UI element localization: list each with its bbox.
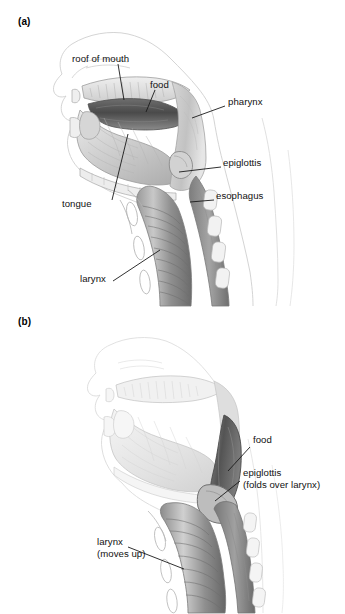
panel-a-artwork	[0, 0, 345, 307]
food-bolus-a	[88, 99, 185, 130]
label-epiglottis-b: epiglottis	[243, 467, 281, 479]
panel-b: (b)	[0, 307, 345, 614]
label-larynx-b: larynx	[97, 536, 123, 548]
label-food-a: food	[150, 79, 169, 91]
label-epiglottis-a: epiglottis	[223, 157, 261, 169]
label-food-b: food	[253, 434, 272, 446]
label-esophagus-a: esophagus	[216, 190, 263, 202]
label-roof-of-mouth-a: roof of mouth	[72, 53, 129, 65]
panel-a: (a)	[0, 0, 345, 307]
roof-of-mouth-shape-b	[116, 376, 224, 403]
swallowing-figure: (a)	[0, 0, 345, 614]
label-larynx-note-b: (moves up)	[97, 548, 145, 560]
panel-b-artwork	[0, 307, 345, 614]
epiglottis-shape-a	[169, 151, 192, 178]
larynx-trachea-shape-a	[137, 186, 192, 306]
label-tongue-a: tongue	[62, 198, 92, 210]
label-pharynx-a: pharynx	[228, 96, 262, 108]
label-epiglottis-note-b: (folds over larynx)	[243, 479, 320, 491]
label-larynx-a: larynx	[80, 273, 106, 285]
